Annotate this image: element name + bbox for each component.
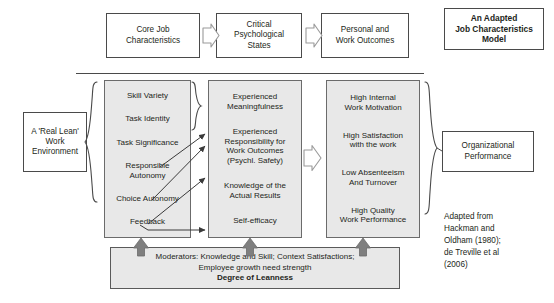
brace-core-top-three [192,82,201,130]
column-personal-and-work-outcomes-list: High Internal Work Motivation High Satis… [327,81,419,237]
context-box-real-lean-work-environment: A 'Real Lean' Work Environment [23,112,87,172]
item-responsible-autonomy: Responsible Autonomy [125,161,169,181]
job-characteristics-model-diagram: Core Job Characteristics Critical Psycho… [0,0,554,303]
item-high-satisfaction-with-the-work: High Satisfaction with the work [343,131,403,151]
item-feedback: Feedback [130,217,165,227]
outcome-box-organizational-performance: Organizational Performance [442,131,534,172]
item-experienced-responsibility: Experienced Responsibility for Work Outc… [225,127,286,166]
header-box-critical-psychological-states: Critical Psychological States [216,13,302,58]
block-arrow-header-2 [306,24,322,47]
moderators-line-1: Moderators: Knowledge and Skill; Context… [156,252,355,263]
item-skill-variety: Skill Variety [127,91,168,101]
context-label-real-lean-work-environment: A 'Real Lean' Work Environment [31,127,79,158]
item-task-significance: Task Significance [117,138,179,148]
block-arrow-states-to-outcomes [304,146,321,171]
header-label-personal-and-work-outcomes: Personal and Work Outcomes [336,25,395,46]
moderators-degree-of-leanness: Degree of Leanness [217,273,293,284]
column-critical-psychological-states: Experienced Meaningfulness Experienced R… [208,80,302,238]
moderators-line-2: Employee growth need strength [199,263,312,274]
item-choice-autonomy: Choice Autonomy [116,194,179,204]
figure-title-box: An Adapted Job Characteristics Model [444,8,544,50]
header-box-personal-and-work-outcomes: Personal and Work Outcomes [321,13,409,58]
attribution-note: Adapted from Hackman and Oldham (1980); … [444,211,549,270]
header-label-core-job-characteristics: Core Job Characteristics [126,25,180,46]
item-self-efficacy: Self-efficacy [233,216,276,226]
column-critical-psychological-states-list: Experienced Meaningfulness Experienced R… [209,81,301,237]
item-high-internal-work-motivation: High Internal Work Motivation [344,93,401,113]
outcome-label-organizational-performance: Organizational Performance [462,141,515,162]
item-experienced-meaningfulness: Experienced Meaningfulness [227,92,283,112]
item-knowledge-of-actual-results: Knowledge of the Actual Results [224,181,286,201]
figure-title-label: An Adapted Job Characteristics Model [455,13,533,46]
brace-outcomes-to-organizational-performance [425,82,437,214]
moderators-box: Moderators: Knowledge and Skill; Context… [110,247,400,289]
column-core-job-characteristics: Skill Variety Task Identity Task Signifi… [104,80,191,238]
item-low-absenteeism-and-turnover: Low Absenteeism And Turnover [342,168,405,188]
item-high-quality-work-performance: High Quality Work Performance [340,206,407,226]
item-task-identity: Task Identity [125,114,169,124]
column-personal-and-work-outcomes: High Internal Work Motivation High Satis… [326,80,420,238]
header-box-core-job-characteristics: Core Job Characteristics [106,13,200,58]
column-core-job-characteristics-list: Skill Variety Task Identity Task Signifi… [105,81,190,237]
header-label-critical-psychological-states: Critical Psychological States [234,20,284,51]
